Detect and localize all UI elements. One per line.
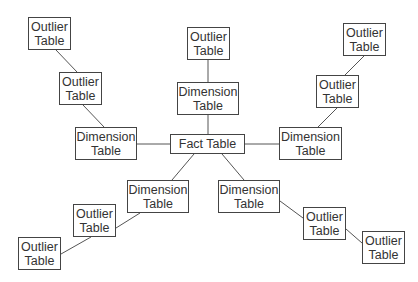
table-node-ot2: Outlier Table: [59, 72, 102, 105]
table-node-ot-bl2: Outlier Table: [18, 237, 61, 270]
table-node-ot-top: Outlier Table: [187, 27, 230, 60]
table-node-ot-tr1: Outlier Table: [343, 23, 386, 56]
table-node-fact: Fact Table: [170, 134, 245, 154]
table-node-dt-br: Dimension Table: [218, 180, 280, 213]
edge-dt_bl-ot_bl1: [116, 213, 140, 228]
table-node-ot-bl1: Outlier Table: [73, 204, 116, 237]
edge-dt_br-ot_br1: [280, 201, 303, 218]
edge-ot_br1-ot_br2: [346, 229, 362, 243]
edge-fact-dt_bl: [172, 154, 194, 180]
table-node-dt-top: Dimension Table: [177, 82, 239, 115]
edge-ot_tr2-dt_right: [318, 108, 337, 127]
table-node-ot-br2: Outlier Table: [362, 231, 405, 264]
table-node-dt-right: Dimension Table: [279, 127, 342, 160]
edge-ot_bl1-ot_bl2: [61, 237, 91, 254]
edge-ot1-ot2: [56, 50, 77, 72]
table-node-ot-br1: Outlier Table: [303, 207, 346, 240]
table-node-ot-tr2: Outlier Table: [316, 75, 359, 108]
table-node-ot1: Outlier Table: [28, 17, 71, 50]
edge-ot2-dt_left: [83, 105, 104, 127]
table-node-dt-left: Dimension Table: [75, 127, 137, 160]
edge-ot_tr1-ot_tr2: [345, 56, 364, 75]
edge-fact-dt_br: [222, 154, 244, 180]
table-node-dt-bl: Dimension Table: [127, 180, 189, 213]
